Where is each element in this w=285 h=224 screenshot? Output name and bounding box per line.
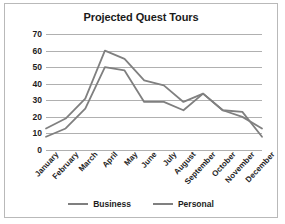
y-tick-label-30: 30 <box>6 95 42 105</box>
x-tick-label-march: March <box>77 150 100 173</box>
y-tick-label-0: 0 <box>6 145 42 155</box>
y-axis-labels: 010203040506070 <box>5 34 42 150</box>
plot-area <box>46 34 262 150</box>
series-line-business <box>46 67 262 137</box>
y-tick-label-60: 60 <box>6 46 42 56</box>
y-tick-label-50: 50 <box>6 62 42 72</box>
y-tick-label-20: 20 <box>6 112 42 122</box>
x-tick-label-may: May <box>122 150 139 168</box>
legend-swatch-personal <box>153 203 173 205</box>
legend-item-business: Business <box>68 199 131 209</box>
chart-legend: Business Personal <box>5 199 277 209</box>
legend-label-personal: Personal <box>178 199 214 209</box>
x-tick-label-april: April <box>100 150 119 169</box>
legend-swatch-business <box>68 203 88 205</box>
y-tick-label-40: 40 <box>6 79 42 89</box>
series-lines <box>46 34 262 150</box>
x-tick-label-june: June <box>139 150 158 170</box>
y-tick-label-10: 10 <box>6 128 42 138</box>
legend-label-business: Business <box>93 199 131 209</box>
legend-item-personal: Personal <box>153 199 214 209</box>
y-tick-label-70: 70 <box>6 29 42 39</box>
chart-container: Projected Quest Tours 010203040506070 Ja… <box>4 3 278 218</box>
plot-wrapper: 010203040506070 JanuaryFebruaryMarchApri… <box>5 4 279 219</box>
